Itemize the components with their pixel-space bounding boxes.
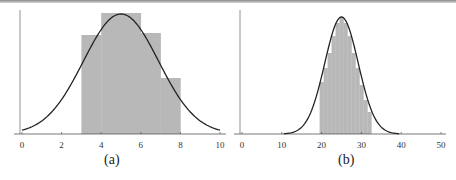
histogram-bar bbox=[141, 33, 161, 134]
x-tick-label: 2 bbox=[59, 140, 64, 150]
chart-canvas: 0246810 01020304050 bbox=[0, 0, 456, 180]
x-tick-label: 50 bbox=[437, 140, 447, 150]
histogram-bar bbox=[363, 100, 367, 134]
x-tick-label: 20 bbox=[317, 140, 327, 150]
x-tick-label: 0 bbox=[240, 140, 245, 150]
histogram-bar bbox=[332, 36, 336, 134]
caption-a: (a) bbox=[104, 152, 120, 168]
histogram-bar bbox=[320, 82, 324, 134]
x-ticks-b: 01020304050 bbox=[240, 132, 446, 150]
x-ticks-a: 0246810 bbox=[20, 132, 225, 150]
histogram-bar bbox=[351, 53, 355, 134]
histogram-bar bbox=[324, 68, 328, 134]
panel-b: 01020304050 bbox=[234, 10, 446, 150]
histogram-bar bbox=[161, 78, 181, 134]
histogram-bars-a bbox=[81, 13, 180, 134]
histogram-bar bbox=[336, 23, 340, 134]
caption-b: (b) bbox=[338, 152, 354, 168]
histogram-bar bbox=[343, 23, 347, 134]
histogram-bar bbox=[340, 17, 344, 134]
x-tick-label: 30 bbox=[357, 140, 367, 150]
x-tick-label: 40 bbox=[397, 140, 407, 150]
histogram-bar bbox=[347, 36, 351, 134]
x-tick-label: 8 bbox=[178, 140, 183, 150]
x-tick-label: 6 bbox=[139, 140, 144, 150]
histogram-bars-b bbox=[320, 17, 372, 134]
histogram-bar bbox=[355, 68, 359, 134]
panel-a: 0246810 bbox=[14, 10, 226, 150]
x-tick-label: 4 bbox=[99, 140, 104, 150]
histogram-bar bbox=[367, 112, 371, 134]
histogram-bar bbox=[328, 53, 332, 134]
histogram-bar bbox=[359, 85, 363, 134]
x-tick-label: 10 bbox=[277, 140, 287, 150]
x-tick-label: 10 bbox=[216, 140, 226, 150]
x-tick-label: 0 bbox=[20, 140, 25, 150]
histogram-bar bbox=[101, 13, 141, 134]
histogram-bar bbox=[81, 35, 101, 134]
